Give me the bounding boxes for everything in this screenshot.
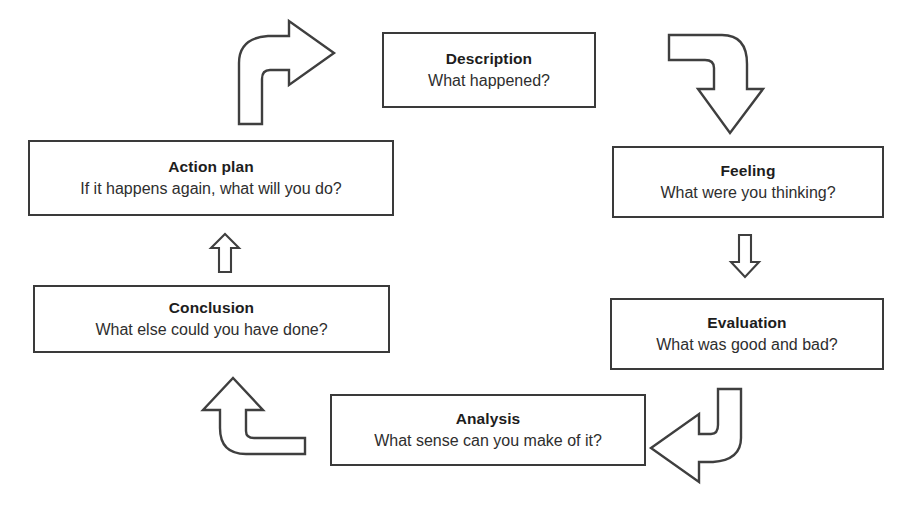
node-title: Action plan	[168, 157, 254, 177]
node-title: Evaluation	[707, 313, 786, 333]
node-feeling[interactable]: Feeling What were you thinking?	[612, 146, 884, 218]
node-prompt: What happened?	[428, 71, 550, 91]
node-title: Description	[446, 49, 532, 69]
node-evaluation[interactable]: Evaluation What was good and bad?	[610, 298, 884, 370]
node-analysis[interactable]: Analysis What sense can you make of it?	[330, 394, 646, 466]
node-prompt: What else could you have done?	[95, 320, 327, 340]
curve-left-up-arrow	[203, 378, 305, 454]
node-title: Conclusion	[169, 298, 254, 318]
curve-up-right-arrow	[239, 21, 334, 124]
curve-right-down-arrow	[669, 35, 763, 133]
node-conclusion[interactable]: Conclusion What else could you have done…	[33, 285, 390, 353]
node-description[interactable]: Description What happened?	[382, 32, 596, 108]
node-title: Feeling	[721, 161, 776, 181]
node-action-plan[interactable]: Action plan If it happens again, what wi…	[28, 140, 394, 216]
node-prompt: What sense can you make of it?	[374, 431, 602, 451]
node-title: Analysis	[456, 409, 521, 429]
diagram-canvas: Description What happened? Feeling What …	[0, 0, 916, 512]
node-prompt: If it happens again, what will you do?	[80, 179, 342, 199]
curve-down-left-arrow	[651, 389, 741, 482]
straight-up-arrow	[211, 234, 239, 272]
node-prompt: What were you thinking?	[660, 183, 835, 203]
straight-down-arrow	[731, 235, 759, 277]
node-prompt: What was good and bad?	[656, 335, 837, 355]
